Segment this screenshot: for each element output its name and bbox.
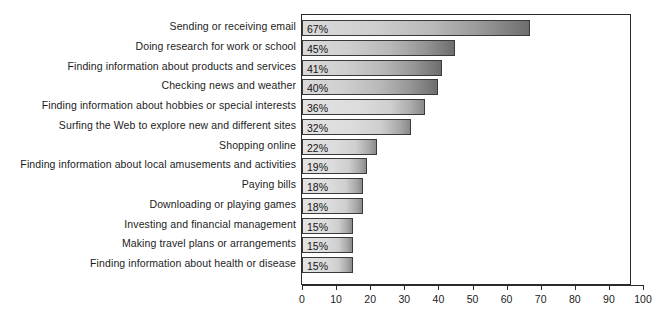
category-label: Finding information about health or dise… [0,257,296,269]
bar-value-label: 18% [307,179,328,195]
category-label: Sending or receiving email [0,20,296,32]
bar-value-label: 41% [307,61,328,77]
bar: 40% [302,79,438,95]
category-label: Shopping online [0,139,296,151]
bar: 19% [302,158,367,174]
category-label: Checking news and weather [0,79,296,91]
bar: 18% [302,198,363,214]
x-axis: 0102030405060708090100 [302,285,644,315]
x-tick-mark [575,285,576,290]
bar-value-label: 19% [307,159,328,175]
x-tick-mark [541,285,542,290]
bar: 15% [302,218,353,234]
bars-layer: 67%45%41%40%36%32%22%19%18%18%15%15%15% [302,20,642,278]
x-tick-mark [473,285,474,290]
category-label: Downloading or playing games [0,198,296,210]
bar: 67% [302,20,530,36]
x-tick-mark [643,285,644,290]
bar: 45% [302,40,455,56]
x-tick-mark [302,285,303,290]
bar-value-label: 15% [307,219,328,235]
bar-value-label: 67% [307,21,328,37]
x-tick-label: 70 [535,293,547,305]
bar-value-label: 40% [307,80,328,96]
category-label: Doing research for work or school [0,40,296,52]
bar-value-label: 36% [307,100,328,116]
category-label: Finding information about products and s… [0,60,296,72]
x-tick-label: 90 [603,293,615,305]
x-tick-label: 10 [330,293,342,305]
category-label: Surfing the Web to explore new and diffe… [0,119,296,131]
bar-value-label: 15% [307,258,328,274]
x-tick-label: 80 [569,293,581,305]
category-label: Finding information about local amusemen… [0,158,296,170]
bar: 22% [302,139,377,155]
x-tick-mark [404,285,405,290]
bar-value-label: 15% [307,238,328,254]
bar: 41% [302,60,442,76]
horizontal-bar-chart: Sending or receiving emailDoing research… [0,0,670,326]
x-tick-mark [507,285,508,290]
category-label: Finding information about hobbies or spe… [0,99,296,111]
bar-value-label: 18% [307,199,328,215]
bar-value-label: 32% [307,120,328,136]
bar-value-label: 22% [307,140,328,156]
bar-value-label: 45% [307,41,328,57]
x-tick-mark [438,285,439,290]
bar: 15% [302,237,353,253]
x-tick-label: 30 [398,293,410,305]
x-tick-label: 50 [467,293,479,305]
bar: 18% [302,178,363,194]
x-tick-label: 40 [433,293,445,305]
x-tick-mark [336,285,337,290]
x-tick-label: 0 [299,293,305,305]
x-tick-label: 20 [364,293,376,305]
x-tick-label: 60 [501,293,513,305]
x-tick-label: 100 [634,293,652,305]
bar: 15% [302,257,353,273]
category-label: Investing and financial management [0,218,296,230]
category-label: Making travel plans or arrangements [0,237,296,249]
bar: 36% [302,99,425,115]
category-labels: Sending or receiving emailDoing research… [0,19,296,277]
x-tick-mark [370,285,371,290]
category-label: Paying bills [0,178,296,190]
x-tick-mark [609,285,610,290]
bar: 32% [302,119,411,135]
